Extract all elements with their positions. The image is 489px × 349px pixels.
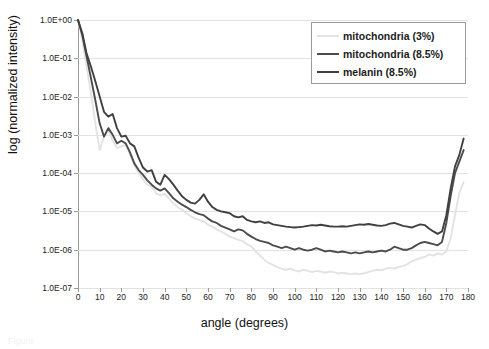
x-axis-tick-label: 170 bbox=[439, 292, 453, 302]
figure-chart: log (normalized intensity) angle (degree… bbox=[0, 0, 489, 349]
legend-swatch bbox=[317, 53, 339, 55]
y-axis-tick-label: 1.0E-06 bbox=[42, 245, 72, 255]
y-axis-tick-label: 1.0E-05 bbox=[42, 206, 72, 216]
x-axis-tick-label: 160 bbox=[418, 292, 432, 302]
x-axis-title: angle (degrees) bbox=[0, 316, 489, 330]
x-axis-tick-label: 90 bbox=[268, 292, 277, 302]
x-axis-tick-label: 150 bbox=[396, 292, 410, 302]
x-axis-tick-label: 0 bbox=[76, 292, 81, 302]
x-axis-tick-label: 20 bbox=[117, 292, 126, 302]
legend-item[interactable]: melanin (8.5%) bbox=[317, 63, 460, 81]
legend-swatch bbox=[317, 35, 339, 37]
y-axis-tick-label: 1.0E+00 bbox=[40, 15, 72, 25]
legend-item[interactable]: mitochondria (8.5%) bbox=[317, 45, 460, 63]
y-axis-title: log (normalized intensity) bbox=[6, 15, 20, 154]
x-axis-tick-label: 120 bbox=[331, 292, 345, 302]
x-axis-tick-label: 180 bbox=[461, 292, 475, 302]
x-axis-tick-label: 30 bbox=[138, 292, 147, 302]
legend-swatch bbox=[317, 71, 339, 73]
x-axis-tick-label: 40 bbox=[160, 292, 169, 302]
y-axis-tick-label: 1.0E-07 bbox=[42, 283, 72, 293]
legend-label: mitochondria (8.5%) bbox=[343, 48, 443, 60]
legend-label: melanin (8.5%) bbox=[343, 66, 417, 78]
figure-caption: Figure bbox=[8, 336, 34, 346]
x-axis-tick-label: 140 bbox=[374, 292, 388, 302]
y-axis-tick-label: 1.0E-01 bbox=[42, 53, 72, 63]
legend-label: mitochondria (3%) bbox=[343, 30, 435, 42]
y-axis-tick-label: 1.0E-02 bbox=[42, 92, 72, 102]
x-axis-tick-label: 130 bbox=[353, 292, 367, 302]
legend[interactable]: mitochondria (3%)mitochondria (8.5%)mela… bbox=[311, 22, 466, 84]
x-axis-tick-label: 10 bbox=[95, 292, 104, 302]
x-axis-tick-label: 70 bbox=[225, 292, 234, 302]
x-axis-tick-label: 60 bbox=[203, 292, 212, 302]
x-axis-tick-label: 50 bbox=[182, 292, 191, 302]
x-axis-tick-label: 110 bbox=[310, 292, 324, 302]
legend-item[interactable]: mitochondria (3%) bbox=[317, 27, 460, 45]
y-axis-tick-label: 1.0E-03 bbox=[42, 130, 72, 140]
x-axis-tick-label: 80 bbox=[247, 292, 256, 302]
y-axis-tick-label: 1.0E-04 bbox=[42, 168, 72, 178]
x-axis-tick-label: 100 bbox=[288, 292, 302, 302]
